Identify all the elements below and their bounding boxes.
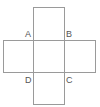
square-center bbox=[34, 41, 65, 73]
cube-net-diagram: A B D C bbox=[0, 0, 100, 107]
vertex-label-b: B bbox=[66, 29, 72, 39]
square-left bbox=[4, 41, 34, 73]
square-bottom bbox=[34, 73, 65, 105]
square-top bbox=[34, 8, 65, 41]
vertex-label-a: A bbox=[25, 29, 31, 39]
square-right bbox=[65, 41, 96, 73]
vertex-label-c: C bbox=[66, 75, 73, 85]
vertex-label-d: D bbox=[25, 75, 32, 85]
